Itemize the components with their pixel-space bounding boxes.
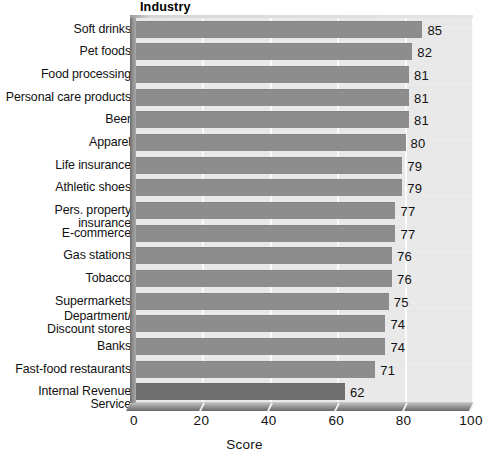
category-axis-labels: Soft drinksPet foodsFood processingPerso… <box>0 18 131 403</box>
category-label: E-commerce <box>0 227 131 240</box>
bar <box>136 89 409 106</box>
category-label: Athletic shoes <box>0 181 131 194</box>
bar <box>136 338 385 355</box>
bar <box>136 179 402 196</box>
x-tick-label: 20 <box>194 414 210 428</box>
x-tick-label: 0 <box>130 414 138 428</box>
x-tick-mark <box>199 403 205 412</box>
category-label: Banks <box>0 340 131 353</box>
bar <box>136 202 395 219</box>
x-tick-label: 100 <box>459 414 482 428</box>
category-label: Beer <box>0 113 131 126</box>
bar <box>136 225 395 242</box>
x-tick-label: 40 <box>261 414 277 428</box>
bar <box>136 66 409 83</box>
x-axis: 020406080100 <box>0 403 489 439</box>
bar <box>136 270 392 287</box>
category-label: Apparel <box>0 136 131 149</box>
bar <box>136 293 389 310</box>
category-label: Pet foods <box>0 45 131 58</box>
category-label: Soft drinks <box>0 23 131 36</box>
x-tick-mark <box>334 403 340 412</box>
bar <box>136 21 422 38</box>
category-label: Life insurance <box>0 159 131 172</box>
x-tick-label: 80 <box>396 414 412 428</box>
category-label: Department/ Discount stores <box>0 310 131 335</box>
x-tick-mark <box>469 403 475 412</box>
x-tick-mark <box>401 403 407 412</box>
bar <box>136 361 375 378</box>
category-label: Tobacco <box>0 272 131 285</box>
category-label: Personal care products <box>0 91 131 104</box>
plot-title: Industry <box>140 0 190 14</box>
bar-chart: Industry Soft drinksPet foodsFood proces… <box>0 0 489 459</box>
bar <box>136 134 406 151</box>
bar <box>136 111 409 128</box>
x-axis-title: Score <box>0 437 489 452</box>
bar <box>136 315 385 332</box>
category-label: Food processing <box>0 68 131 81</box>
bar <box>136 43 412 60</box>
bar <box>136 157 402 174</box>
category-label: Supermarkets <box>0 295 131 308</box>
bar <box>136 383 345 400</box>
plot-left-edge-3d <box>130 18 136 403</box>
x-tick-mark <box>266 403 272 412</box>
plot-area <box>136 18 473 403</box>
bar <box>136 247 392 264</box>
x-tick-label: 60 <box>328 414 344 428</box>
gridline <box>472 18 473 403</box>
category-label: Gas stations <box>0 249 131 262</box>
category-label: Fast-food restaurants <box>0 363 131 376</box>
